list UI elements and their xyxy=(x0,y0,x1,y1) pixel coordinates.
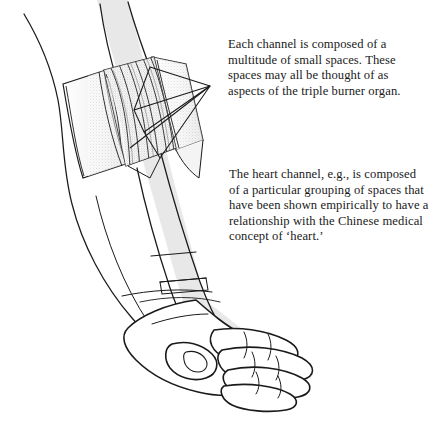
figure-page: Each channel is composed of a multitude … xyxy=(0,0,435,428)
annotation-triple-burner: Each channel is composed of a multitude … xyxy=(228,37,424,99)
fingers xyxy=(210,328,312,411)
annotation-heart-channel: The heart channel, e.g., is composed of … xyxy=(229,167,429,245)
